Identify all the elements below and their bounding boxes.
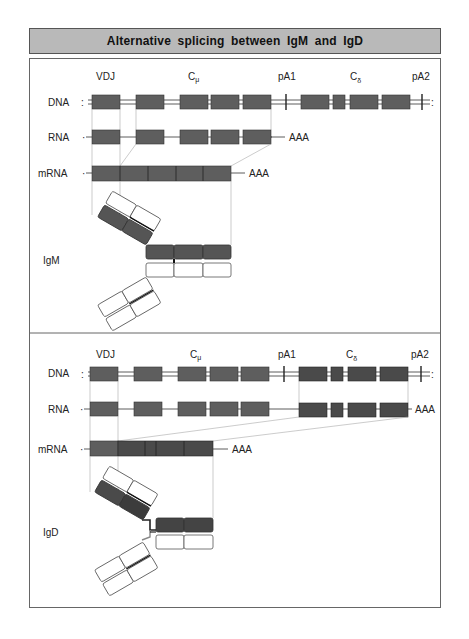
dna-end-dots: :: [431, 97, 434, 108]
splicing-diagram: VDJ Cμ pA1 Cδ pA2 DNA RNA mRNA : :: [0, 0, 469, 639]
rna-strand: · AAA: [80, 402, 435, 417]
dna-strand: : :: [81, 366, 434, 382]
exon-cdelta-4: [380, 367, 408, 381]
label-pa2: pA2: [412, 71, 430, 82]
exon-cmu-4: [243, 95, 271, 109]
dna-start-dots: :: [81, 97, 84, 108]
label-c-delta: Cδ: [350, 71, 361, 84]
panel-igm: VDJ Cμ pA1 Cδ pA2 DNA RNA mRNA : :: [38, 71, 434, 331]
dna-strand: : :: [81, 94, 434, 110]
exon-cmu-2: [180, 95, 208, 109]
rna-exon-cmu-2: [180, 130, 208, 144]
exon-cmu-4: [241, 367, 269, 381]
label-pa2: pA2: [411, 349, 429, 360]
label-c-mu: Cμ: [190, 349, 201, 362]
svg-text:·: ·: [80, 444, 83, 455]
mrna-block: [92, 166, 231, 181]
antibody-label-igm: IgM: [43, 255, 60, 266]
exon-cmu-2: [178, 367, 206, 381]
svg-text::: :: [81, 369, 84, 380]
antibody-label-igd: IgD: [43, 527, 59, 538]
rna-polya-tail: AAA: [289, 132, 309, 143]
mrna-polya-tail: AAA: [232, 444, 252, 455]
rna-exon-cmu-3: [211, 130, 239, 144]
label-vdj: VDJ: [96, 349, 115, 360]
rna-exon-cmu-1: [136, 130, 164, 144]
row-label-mrna: mRNA: [38, 168, 68, 179]
label-vdj: VDJ: [96, 71, 115, 82]
rna-exon-vdj: [90, 402, 118, 416]
exon-cmu-1: [134, 367, 162, 381]
label-pa1: pA1: [278, 349, 296, 360]
exon-cmu-1: [136, 95, 164, 109]
exon-cdelta-1: [301, 95, 329, 109]
exon-cdelta-1: [299, 367, 327, 381]
exon-cmu-3: [211, 95, 239, 109]
row-label-dna: DNA: [48, 97, 69, 108]
mrna-strand: · AAA: [82, 166, 269, 181]
mrna-polya-tail: AAA: [249, 168, 269, 179]
row-label-dna: DNA: [48, 368, 69, 379]
svg-text:·: ·: [82, 168, 85, 179]
rna-polya-tail: AAA: [415, 404, 435, 415]
exon-cdelta-2: [333, 95, 345, 109]
svg-text:·: ·: [82, 132, 85, 143]
rna-exon-cmu-4: [243, 130, 271, 144]
label-c-mu: Cμ: [188, 71, 199, 84]
rna-strand: · AAA: [82, 130, 309, 144]
exon-cdelta-2: [331, 367, 343, 381]
label-c-delta: Cδ: [346, 349, 357, 362]
exon-cmu-3: [210, 367, 238, 381]
label-pa1: pA1: [278, 71, 296, 82]
mrna-block: [118, 441, 213, 456]
exon-vdj: [90, 367, 118, 381]
exon-cdelta-3: [350, 95, 378, 109]
row-label-rna: RNA: [48, 132, 69, 143]
row-label-mrna: mRNA: [38, 444, 68, 455]
panel-igd: VDJ Cμ pA1 Cδ pA2 DNA RNA mRNA : :: [38, 349, 435, 596]
svg-text:·: ·: [80, 404, 83, 415]
mrna-strand: · AAA: [80, 441, 252, 456]
svg-text::: :: [431, 369, 434, 380]
exon-vdj: [92, 95, 120, 109]
exon-cdelta-3: [348, 367, 376, 381]
igd-antibody: [95, 466, 213, 596]
rna-exon-vdj: [92, 130, 120, 144]
igm-antibody: [98, 191, 231, 331]
exon-cdelta-4: [382, 95, 410, 109]
row-label-rna: RNA: [48, 404, 69, 415]
